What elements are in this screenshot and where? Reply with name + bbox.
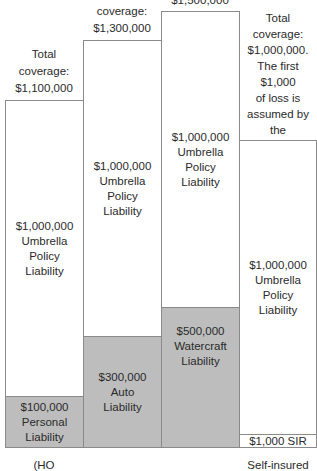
coverage-column-watercraft: $1,000,000 Umbrella Policy Liability $50… xyxy=(161,11,240,448)
caption-self-insured: Self-insured xyxy=(239,459,317,471)
umbrella-line: Umbrella xyxy=(249,273,307,288)
umbrella-line: Umbrella xyxy=(94,174,152,189)
coverage-column-homeowners: $1,000,000 Umbrella Policy Liability $10… xyxy=(5,100,84,448)
label-line: $1,300,000 xyxy=(83,20,161,37)
label-line: $1,500,000 xyxy=(161,0,239,9)
underlying-type: Personal Liability xyxy=(6,415,83,445)
underlying-amount: $500,000 xyxy=(174,324,227,339)
label-line: coverage: xyxy=(239,26,317,42)
underlying-type: Liability xyxy=(99,400,147,415)
underlying-segment: $300,000 Auto Liability xyxy=(84,336,161,447)
umbrella-line: Umbrella xyxy=(16,234,74,249)
umbrella-line: Policy xyxy=(94,189,152,204)
label-line: of loss is xyxy=(239,90,317,106)
total-coverage-label-2: Total coverage: $1,300,000 xyxy=(83,0,161,37)
label-line: The first xyxy=(239,58,317,74)
label-line: Total xyxy=(239,10,317,26)
umbrella-segment: $1,000,000 Umbrella Policy Liability xyxy=(6,101,83,396)
umbrella-amount: $1,000,000 xyxy=(16,219,74,234)
underlying-segment: $500,000 Watercraft Liability xyxy=(162,307,239,447)
umbrella-segment: $1,000,000 Umbrella Policy Liability xyxy=(84,41,161,336)
label-line: $1,000,000. xyxy=(239,42,317,58)
coverage-column-auto: $1,000,000 Umbrella Policy Liability $30… xyxy=(83,40,162,448)
total-coverage-label-1: Total coverage: $1,100,000 xyxy=(5,46,83,97)
total-coverage-label-3: $1,500,000 xyxy=(161,0,239,9)
underlying-amount: $100,000 xyxy=(6,400,83,415)
umbrella-line: Policy xyxy=(16,249,74,264)
label-line: Total xyxy=(5,46,83,63)
umbrella-segment: $1,000,000 Umbrella Policy Liability xyxy=(240,141,316,434)
umbrella-line: Liability xyxy=(172,175,230,190)
underlying-type: Watercraft xyxy=(174,339,227,354)
label-line: coverage: xyxy=(5,63,83,80)
label-line: $1,000 xyxy=(239,74,317,90)
total-coverage-label-4: Total coverage: $1,000,000. The first $1… xyxy=(239,10,317,154)
sir-segment: $1,000 SIR xyxy=(240,434,316,447)
umbrella-segment: $1,000,000 Umbrella Policy Liability xyxy=(162,12,239,307)
caption-homeowners: (HO xyxy=(5,459,83,471)
sir-amount: $1,000 SIR xyxy=(249,434,307,449)
umbrella-line: Liability xyxy=(94,204,152,219)
umbrella-line: Liability xyxy=(249,303,307,318)
coverage-column-sir: $1,000,000 Umbrella Policy Liability $1,… xyxy=(239,140,317,448)
underlying-amount: $300,000 xyxy=(99,370,147,385)
umbrella-line: Umbrella xyxy=(172,145,230,160)
umbrella-amount: $1,000,000 xyxy=(172,130,230,145)
umbrella-amount: $1,000,000 xyxy=(249,258,307,273)
label-line: $1,100,000 xyxy=(5,80,83,97)
umbrella-amount: $1,000,000 xyxy=(94,159,152,174)
label-line: assumed by the xyxy=(239,106,317,138)
umbrella-line: Policy xyxy=(172,160,230,175)
umbrella-line: Liability xyxy=(16,264,74,279)
umbrella-line: Policy xyxy=(249,288,307,303)
underlying-type: Auto xyxy=(99,385,147,400)
label-line: coverage: xyxy=(83,3,161,20)
underlying-type: Liability xyxy=(174,354,227,369)
underlying-segment: $100,000 Personal Liability xyxy=(6,396,83,447)
